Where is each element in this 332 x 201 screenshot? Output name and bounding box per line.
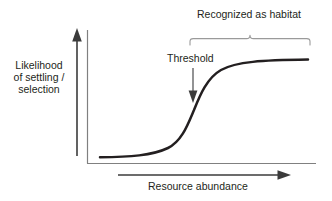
y-axis-label-line-1: Likelihood — [6, 60, 72, 72]
habitat-annotation-label: Recognized as habitat — [197, 9, 301, 21]
figure-canvas — [0, 0, 332, 201]
y-axis-label: Likelihood of settling / selection — [6, 60, 72, 95]
threshold-annotation-label: Threshold — [167, 53, 214, 65]
down-arrow-icon — [189, 68, 198, 103]
sigmoid-curve — [100, 60, 308, 158]
y-axis-label-line-3: selection — [6, 84, 72, 96]
up-arrow-icon — [72, 28, 82, 156]
x-axis-label: Resource abundance — [148, 181, 248, 193]
figure-sigmoid-habitat-threshold: Likelihood of settling / selection Resou… — [0, 0, 332, 201]
right-arrow-icon — [118, 170, 291, 180]
y-axis-label-line-2: of settling / — [6, 72, 72, 84]
curly-brace-icon — [190, 35, 310, 45]
